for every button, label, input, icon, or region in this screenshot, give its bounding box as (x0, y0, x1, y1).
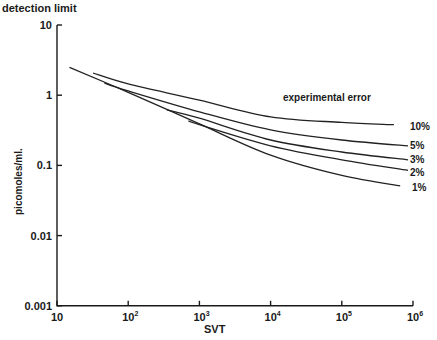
series-label-2pct: 2% (410, 167, 425, 178)
axes: 1010.10.010.00110102103104105106 (24, 19, 423, 323)
x-tick-label: 102 (122, 310, 138, 323)
y-axis-label: picomoles/ml. (13, 148, 24, 215)
x-axis-label: SVT (204, 323, 226, 335)
chart-title: detection limit (2, 2, 77, 14)
y-tick-label: 0.1 (37, 159, 52, 171)
series-label-1pct: 1% (412, 182, 427, 193)
y-tick-label: 1 (46, 89, 52, 101)
series-label-5pct: 5% (410, 140, 425, 151)
series-label-3pct: 3% (410, 154, 425, 165)
x-tick-label: 105 (336, 310, 352, 323)
x-tick-label: 103 (193, 310, 209, 323)
y-tick-label: 10 (40, 19, 52, 31)
x-tick-label: 10 (51, 311, 63, 323)
x-tick-label: 106 (407, 310, 423, 323)
y-tick-label: 0.01 (31, 230, 52, 242)
x-tick-label: 104 (265, 310, 281, 323)
axis-lines (57, 25, 413, 306)
annotation-experimental-error: experimental error (283, 92, 371, 103)
chart: detection limit picomoles/ml. SVT experi… (0, 0, 437, 340)
series-curve-1pct (70, 67, 401, 186)
series-curve-3pct (167, 110, 408, 160)
y-tick-label: 0.001 (24, 300, 52, 312)
curves (70, 67, 409, 186)
series-label-10pct: 10% (410, 121, 430, 132)
